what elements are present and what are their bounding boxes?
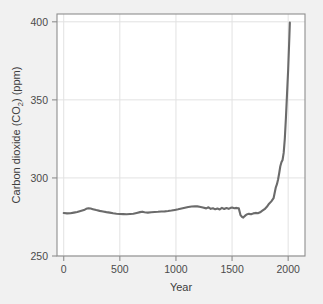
x-tick-label: 500 (111, 263, 129, 275)
x-tick-label: 0 (61, 263, 67, 275)
co2-chart-figure: 250300350400 0500100015002000 Year Carbo… (0, 0, 323, 304)
y-tick-label: 400 (30, 16, 48, 28)
chart-svg: 250300350400 0500100015002000 Year Carbo… (0, 0, 323, 304)
plot-area-background (57, 14, 305, 256)
y-axis-title-main: Carbon dioxide (CO (10, 106, 22, 204)
y-tick-label: 300 (30, 172, 48, 184)
y-axis-title-tail: ) (ppm) (10, 67, 22, 102)
y-tick-label: 350 (30, 94, 48, 106)
x-axis-title: Year (170, 281, 193, 293)
x-tick-label: 2000 (276, 263, 300, 275)
y-tick-label: 250 (30, 250, 48, 262)
x-tick-label: 1000 (164, 263, 188, 275)
x-tick-label: 1500 (220, 263, 244, 275)
